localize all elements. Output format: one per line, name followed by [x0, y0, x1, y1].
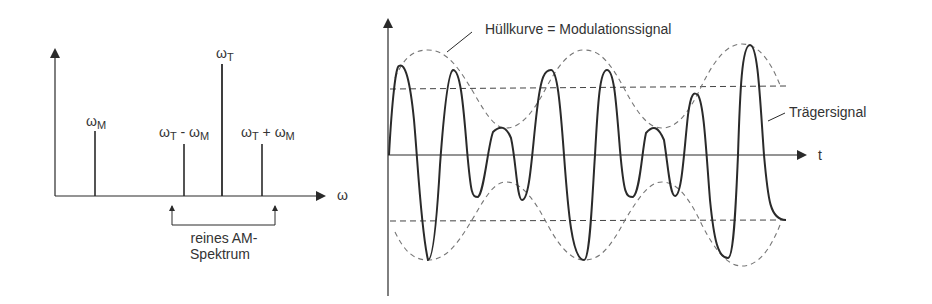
envelope-label: Hüllkurve = Modulationssignal — [485, 21, 671, 37]
label-omega-m: ωM — [86, 113, 106, 131]
am-diagram: ω ωM ωT - ωM ωT ωT + ωM reines AM- Spekt… — [0, 0, 932, 304]
envelope-label-pointer — [447, 32, 472, 52]
time-x-axis-label: t — [818, 147, 822, 163]
bracket-label-line2: Spektrum — [190, 246, 250, 262]
am-spectrum-bracket — [172, 206, 275, 225]
spectrum-chart: ω ωM ωT - ωM ωT ωT + ωM reines AM- Spekt… — [55, 45, 348, 262]
label-omega-t: ωT — [216, 45, 234, 63]
bracket-label-line1: reines AM- — [191, 230, 258, 246]
spectrum-x-axis-label: ω — [337, 187, 348, 203]
label-omega-t-plus-omega-m: ωT + ωM — [241, 124, 295, 142]
carrier-label-pointer — [768, 113, 785, 121]
carrier-label: Trägersignal — [789, 104, 866, 120]
carrier-amplitude-upper-line — [390, 86, 786, 89]
label-omega-t-minus-omega-m: ωT - ωM — [159, 124, 209, 142]
time-signal-chart: t Hüllkurve = Modulationssignal Trägersi… — [388, 20, 866, 296]
modulated-carrier-wave — [389, 45, 786, 260]
carrier-amplitude-lower-line — [390, 220, 786, 221]
